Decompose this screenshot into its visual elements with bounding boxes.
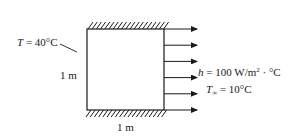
hatch-stroke [113, 22, 118, 29]
hatch-stroke [109, 22, 114, 29]
top-insulation-hatch [88, 22, 169, 29]
hatch-stroke [159, 22, 164, 29]
hatch-stroke [117, 22, 122, 29]
hatch-stroke [141, 110, 146, 117]
hatch-stroke [136, 110, 141, 117]
h-value: = 100 W/m [204, 66, 257, 78]
hatch-stroke [145, 110, 150, 117]
hatch-stroke [151, 22, 156, 29]
hatch-stroke [92, 22, 97, 29]
hatch-stroke [147, 22, 152, 29]
hatch-stroke [94, 110, 99, 117]
hatch-stroke [101, 22, 106, 29]
bottom-insulation-hatch [86, 110, 167, 117]
temperature-leader-line [60, 44, 77, 52]
hatch-stroke [124, 110, 129, 117]
hatch-stroke [153, 110, 158, 117]
hatch-stroke [105, 22, 110, 29]
hatch-stroke [149, 110, 154, 117]
hatch-stroke [126, 22, 131, 29]
tinf-value: = 10°C [217, 83, 251, 95]
hatch-stroke [128, 110, 133, 117]
hatch-stroke [88, 22, 93, 29]
hatch-stroke [122, 22, 127, 29]
convection-arrows [164, 29, 197, 110]
hatch-stroke [164, 22, 169, 29]
hatch-stroke [132, 110, 137, 117]
hatch-stroke [103, 110, 108, 117]
left-temperature-value: 40°C [35, 36, 58, 48]
hatch-stroke [162, 110, 167, 117]
hatch-stroke [134, 22, 139, 29]
hatch-stroke [155, 22, 160, 29]
ambient-temperature-label: T∞ = 10°C [206, 84, 252, 95]
hatch-stroke [86, 110, 91, 117]
bottom-dimension-label: 1 m [117, 122, 134, 133]
left-dimension-label: 1 m [60, 70, 77, 81]
hatch-stroke [143, 22, 148, 29]
hatch-stroke [107, 110, 112, 117]
left-temperature-equals: = [23, 36, 35, 48]
plate-square [87, 29, 164, 110]
hatch-stroke [111, 110, 116, 117]
h-units-tail: · °C [260, 66, 281, 78]
hatch-stroke [90, 110, 95, 117]
hatch-stroke [99, 110, 104, 117]
hatch-stroke [138, 22, 143, 29]
hatch-stroke [120, 110, 125, 117]
hatch-stroke [96, 22, 101, 29]
left-temperature-label: T = 40°C [17, 37, 58, 48]
hatch-stroke [115, 110, 120, 117]
hatch-stroke [157, 110, 162, 117]
heat-transfer-coefficient-label: h = 100 W/m2 · °C [198, 67, 281, 78]
hatch-stroke [130, 22, 135, 29]
